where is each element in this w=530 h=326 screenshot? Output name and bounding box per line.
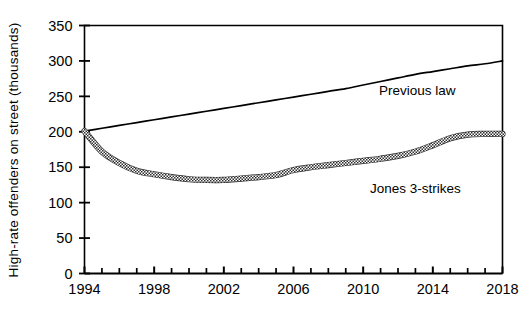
x-tick-label: 2002 xyxy=(208,281,240,297)
x-tick-label: 2018 xyxy=(486,281,518,297)
series-label-previous-law: Previous law xyxy=(379,83,456,98)
x-tick-label: 2006 xyxy=(277,281,309,297)
y-tick-label: 150 xyxy=(48,159,72,175)
y-tick-label: 250 xyxy=(48,89,72,105)
x-tick-label: 2010 xyxy=(347,281,379,297)
y-tick-label: 100 xyxy=(48,195,72,211)
y-tick-label: 200 xyxy=(48,124,72,140)
chart-figure: 050100150200250300350 199419982002200620… xyxy=(0,0,530,326)
x-tick-label: 1998 xyxy=(138,281,170,297)
x-tick-label: 1994 xyxy=(68,281,100,297)
data-series-group xyxy=(85,61,503,180)
y-tick-label: 0 xyxy=(64,266,72,282)
x-axis-ticks xyxy=(85,267,503,274)
y-axis-title: High-rate offenders on street (thousands… xyxy=(6,23,21,278)
y-tick-label: 350 xyxy=(48,18,72,34)
line-chart-canvas: 050100150200250300350 199419982002200620… xyxy=(0,0,530,326)
y-axis-tick-labels: 050100150200250300350 xyxy=(48,18,72,282)
series-label-jones-3-strikes: Jones 3-strikes xyxy=(370,181,461,196)
y-tick-label: 50 xyxy=(56,230,72,246)
x-axis-tick-labels: 1994199820022006201020142018 xyxy=(68,281,518,297)
series-line-jones-3-strikes xyxy=(85,131,503,180)
y-tick-label: 300 xyxy=(48,53,72,69)
x-tick-label: 2014 xyxy=(417,281,449,297)
plot-frame xyxy=(85,26,503,274)
